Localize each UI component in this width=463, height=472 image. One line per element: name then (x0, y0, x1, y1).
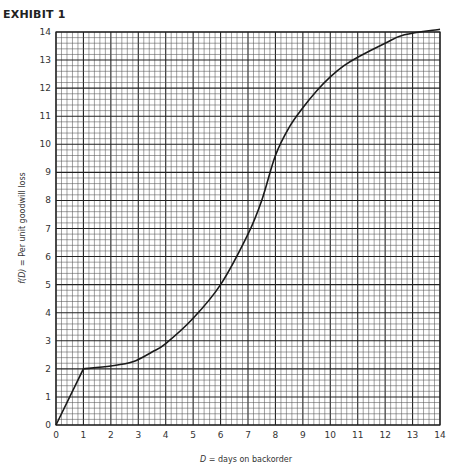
x-tick-label: 1 (81, 430, 87, 440)
y-tick-label: 14 (40, 27, 52, 37)
y-tick-label: 3 (45, 336, 51, 346)
y-tick-label: 13 (40, 55, 51, 65)
y-axis-label: f(D) = Per unit goodwill loss (18, 172, 27, 284)
y-tick-label: 4 (45, 308, 51, 318)
x-axis-label: D = days on backorder (200, 455, 293, 464)
x-tick-label: 12 (379, 430, 390, 440)
x-tick-label: 6 (218, 430, 224, 440)
y-tick-label: 0 (45, 420, 51, 430)
x-tick-label: 14 (434, 430, 446, 440)
line-chart: 0123456789101112131401234567891011121314… (0, 0, 463, 472)
x-tick-label: 4 (163, 430, 169, 440)
y-tick-label: 1 (45, 392, 51, 402)
y-tick-label: 9 (45, 167, 51, 177)
y-tick-label: 6 (45, 252, 51, 262)
x-tick-label: 8 (273, 430, 279, 440)
x-tick-label: 7 (245, 430, 251, 440)
y-tick-label: 10 (40, 139, 52, 149)
x-tick-label: 10 (325, 430, 337, 440)
x-tick-label: 13 (407, 430, 418, 440)
x-tick-label: 0 (53, 430, 59, 440)
y-tick-label: 12 (40, 83, 51, 93)
y-tick-label: 8 (45, 195, 51, 205)
y-tick-label: 11 (40, 111, 51, 121)
x-tick-label: 2 (108, 430, 114, 440)
y-tick-label: 5 (45, 280, 51, 290)
y-tick-label: 7 (45, 224, 51, 234)
y-tick-label: 2 (45, 364, 51, 374)
x-tick-label: 11 (352, 430, 363, 440)
x-tick-label: 5 (190, 430, 196, 440)
x-tick-label: 9 (300, 430, 306, 440)
x-tick-label: 3 (135, 430, 141, 440)
